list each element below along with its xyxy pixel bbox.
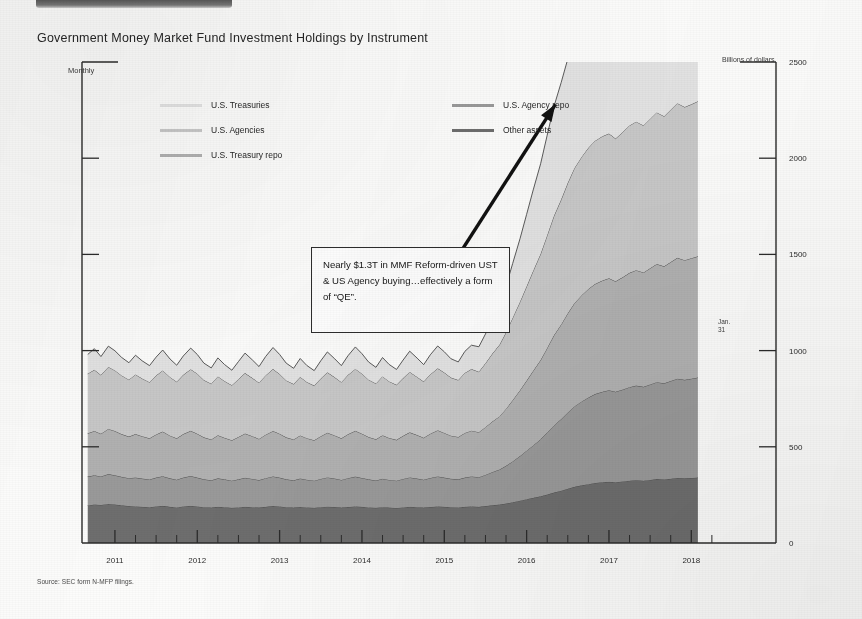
- source-note: Source: SEC form N-MFP filings.: [37, 578, 134, 585]
- x-tick-label: 2018: [682, 556, 700, 565]
- legend-swatch-icon: [160, 129, 202, 132]
- chart-legend: U.S. TreasuriesU.S. AgenciesU.S. Treasur…: [0, 0, 862, 160]
- legend-item-u-s-treasuries[interactable]: U.S. Treasuries: [160, 100, 270, 110]
- legend-item-u-s-treasury-repo[interactable]: U.S. Treasury repo: [160, 150, 282, 160]
- x-tick-label: 2011: [106, 556, 123, 565]
- legend-label: U.S. Agencies: [211, 125, 264, 135]
- legend-label: U.S. Agency repo: [503, 100, 569, 110]
- legend-item-other-assets[interactable]: Other assets: [452, 125, 551, 135]
- x-tick-label: 2017: [600, 556, 618, 565]
- x-tick-label: 2012: [188, 556, 206, 565]
- annotation-callout-box: Nearly $1.3T in MMF Reform-driven UST & …: [311, 247, 510, 333]
- x-tick-label: 2016: [518, 556, 536, 565]
- x-tick-label: 2015: [435, 556, 453, 565]
- y-tick-label: 1000: [789, 346, 807, 355]
- legend-swatch-icon: [160, 104, 202, 107]
- y-tick-label: 500: [789, 442, 802, 451]
- legend-label: U.S. Treasury repo: [211, 150, 282, 160]
- legend-swatch-icon: [452, 104, 494, 107]
- legend-swatch-icon: [160, 154, 202, 157]
- endpoint-date-label: Jan. 31: [718, 318, 730, 334]
- annotation-callout-text: Nearly $1.3T in MMF Reform-driven UST & …: [323, 257, 498, 305]
- y-tick-label: 0: [789, 539, 793, 548]
- y-tick-label: 1500: [789, 250, 807, 259]
- legend-item-u-s-agencies[interactable]: U.S. Agencies: [160, 125, 264, 135]
- legend-swatch-icon: [452, 129, 494, 132]
- legend-label: U.S. Treasuries: [211, 100, 270, 110]
- x-tick-label: 2014: [353, 556, 371, 565]
- legend-item-u-s-agency-repo[interactable]: U.S. Agency repo: [452, 100, 569, 110]
- x-tick-label: 2013: [271, 556, 289, 565]
- legend-label: Other assets: [503, 125, 551, 135]
